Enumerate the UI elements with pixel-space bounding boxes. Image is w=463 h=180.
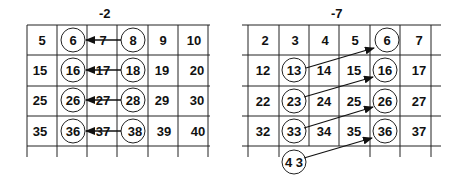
- cell: 29: [155, 93, 169, 108]
- cell: 8: [129, 33, 136, 48]
- cell: 10: [187, 33, 201, 48]
- cell: 17: [96, 63, 110, 78]
- cell: 6: [383, 33, 390, 48]
- cell: 7: [99, 33, 106, 48]
- subtraction-diagrams: -2 5: [0, 0, 463, 180]
- cell: 9: [159, 33, 166, 48]
- cell: 32: [256, 124, 270, 139]
- cell: 23: [287, 94, 301, 109]
- cell: 33: [287, 124, 301, 139]
- cell: 25: [347, 94, 361, 109]
- cell: 5: [351, 33, 358, 48]
- cell: 36: [378, 124, 392, 139]
- cell: 18: [126, 63, 140, 78]
- cell-43: 4 3: [285, 155, 303, 170]
- cell: 17: [412, 63, 426, 78]
- cell: 19: [155, 63, 169, 78]
- right-cells: 2 3 4 5 6 7 12 13 14 15 16 17 22 23 24 2…: [256, 33, 426, 170]
- cell: 37: [412, 124, 426, 139]
- cell: 14: [317, 63, 332, 78]
- cell: 15: [33, 63, 47, 78]
- cell: 40: [191, 124, 205, 139]
- cell: 27: [96, 93, 110, 108]
- cell: 34: [317, 124, 332, 139]
- cell: 30: [190, 93, 204, 108]
- left-diagram: -2 5: [27, 6, 210, 157]
- left-title: -2: [99, 6, 111, 21]
- cell: 27: [412, 94, 426, 109]
- cell: 15: [347, 63, 361, 78]
- cell: 2: [261, 33, 268, 48]
- left-grid-lines: [27, 25, 210, 157]
- cell: 16: [378, 63, 392, 78]
- cell: 35: [33, 124, 47, 139]
- cell: 4: [321, 33, 329, 48]
- cell: 26: [66, 93, 80, 108]
- cell: 37: [96, 124, 110, 139]
- cell: 39: [157, 124, 171, 139]
- cell: 3: [291, 33, 298, 48]
- cell: 38: [128, 124, 142, 139]
- cell: 35: [347, 124, 361, 139]
- cell: 5: [38, 33, 45, 48]
- cell: 6: [69, 33, 76, 48]
- cell: 13: [287, 63, 301, 78]
- cell: 24: [317, 94, 332, 109]
- cell: 28: [126, 93, 140, 108]
- cell: 16: [66, 63, 80, 78]
- cell: 7: [415, 33, 422, 48]
- cell: 26: [378, 94, 392, 109]
- cell: 20: [190, 63, 204, 78]
- cell: 36: [66, 124, 80, 139]
- right-title: -7: [331, 6, 343, 21]
- cell: 12: [256, 63, 270, 78]
- cell: 22: [256, 94, 270, 109]
- cell: 25: [33, 93, 47, 108]
- right-diagram: -7 2 3: [242, 6, 441, 174]
